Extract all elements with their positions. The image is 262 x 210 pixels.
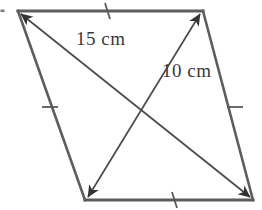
edge-artifact-mark [1, 10, 5, 13]
diagonals [21, 14, 250, 197]
side-right [203, 11, 253, 200]
diagonal-long-length-label: 15 cm [76, 28, 125, 50]
diagonal-long-arrow [21, 14, 250, 197]
rhombus-diagram-svg [0, 0, 262, 210]
geometry-figure-canvas: 15 cm 10 cm [0, 0, 262, 210]
side-tick-marks [42, 3, 243, 208]
diagonal-short-length-label: 10 cm [162, 60, 211, 82]
